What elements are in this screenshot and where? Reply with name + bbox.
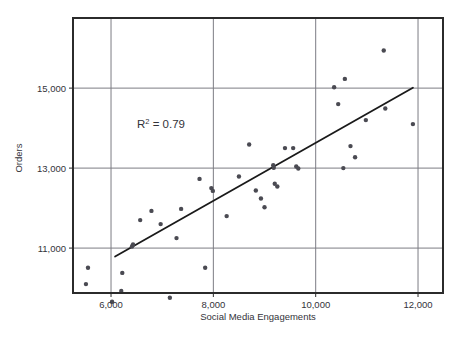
data-point — [203, 265, 207, 269]
data-point — [262, 205, 266, 209]
data-point — [272, 165, 276, 169]
data-point — [341, 166, 345, 170]
scatter-chart-figure: 6,0008,00010,00012,000 11,00013,00015,00… — [0, 0, 467, 340]
data-point — [179, 207, 183, 211]
x-tick-label: 12,000 — [403, 299, 432, 310]
data-point — [275, 184, 279, 188]
data-point — [84, 282, 88, 286]
data-point — [211, 189, 215, 193]
x-tick-label: 10,000 — [301, 299, 330, 310]
data-point — [247, 142, 251, 146]
data-point — [332, 85, 336, 89]
y-axis-title: Orders — [13, 143, 24, 172]
data-point — [158, 222, 162, 226]
y-axis-tick-labels: 11,00013,00015,000 — [37, 83, 66, 254]
chart-canvas: 6,0008,00010,00012,000 11,00013,00015,00… — [0, 0, 467, 340]
x-axis-title: Social Media Engagements — [200, 311, 316, 322]
y-tick-label: 13,000 — [37, 163, 66, 174]
data-point — [197, 177, 201, 181]
data-point — [296, 166, 300, 170]
plot-area-background — [73, 18, 443, 293]
x-tick-label: 8,000 — [201, 299, 225, 310]
data-point — [168, 295, 172, 299]
data-point — [174, 236, 178, 240]
r-squared-value: = 0.79 — [149, 118, 185, 130]
data-point — [382, 48, 386, 52]
x-axis-tick-labels: 6,0008,00010,00012,000 — [99, 299, 432, 310]
y-tick-label: 11,000 — [38, 243, 66, 254]
x-tick-label: 6,000 — [99, 299, 123, 310]
data-point — [383, 106, 387, 110]
data-point — [224, 214, 228, 218]
data-point — [131, 242, 135, 246]
data-point — [343, 77, 347, 81]
data-point — [348, 144, 352, 148]
data-point — [291, 146, 295, 150]
y-tick-label: 15,000 — [37, 83, 66, 94]
r-squared-annotation: R2 = 0.79 — [137, 117, 185, 130]
data-point — [237, 174, 241, 178]
data-point — [254, 188, 258, 192]
data-point — [336, 102, 340, 106]
r-squared-base: R — [137, 118, 145, 130]
data-point — [353, 155, 357, 159]
data-point — [149, 209, 153, 213]
data-point — [120, 271, 124, 275]
data-point — [411, 122, 415, 126]
data-point — [86, 265, 90, 269]
data-point — [283, 146, 287, 150]
data-point — [259, 196, 263, 200]
data-point — [364, 118, 368, 122]
data-point — [138, 218, 142, 222]
